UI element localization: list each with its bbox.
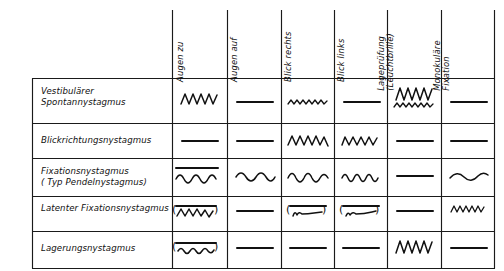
column-header-line: Blick links [337,39,347,82]
trace-sawtooth-large [181,94,217,104]
paren-open: ( [172,203,176,216]
column-header-lagepruefung: Lageprüfung (Leuchtbrille) [377,33,396,91]
row-label-blickrichtungsnystagmus: Blickrichtungsnystagmus [41,135,151,146]
paren-open: ( [172,240,176,253]
trace-sine-wide [450,173,488,180]
paren-open: ( [339,203,343,216]
column-header-blick-rechts: Blick rechts [284,31,294,81]
trace-sawtooth-small [177,209,213,217]
trace-sawtooth-medium [288,136,328,146]
paren-close: ) [214,240,218,253]
trace-sine-small [178,249,214,254]
row-label-line: Vestibulärer [41,86,126,97]
paren-close: ) [322,203,326,216]
column-header-line: Blick rechts [284,31,294,81]
trace-sawtooth-small [288,100,327,104]
row-label-fixationsnystagmus: Fixationsnystagmus ( Typ Pendelnystagmus… [41,166,147,188]
column-header-line: Augen zu [176,42,186,82]
trace-sine [288,174,328,183]
row-latenter-fixationsnystagmus-traces [176,206,484,217]
paren-close: ) [375,203,379,216]
row-label-latenter-fixationsnystagmus: Latenter Fixationsnystagmus [41,203,169,214]
trace-sine-small [342,175,378,182]
row-label-line: Spontannystagmus [41,97,126,108]
trace-sawtooth-large [396,88,432,100]
trace-decay [346,211,376,216]
column-header-monokulaere-fixation: Monokuläre Fixation [433,40,452,91]
paren-close: ) [214,203,218,216]
trace-sine [176,175,216,183]
trace-sine [236,173,275,181]
column-header-augen-zu: Augen zu [176,42,186,82]
row-lagerungsnystagmus-traces [176,241,487,254]
row-label-vestibulaerer-spontannystagmus: Vestibulärer Spontannystagmus [41,86,126,108]
row-label-line: Latenter Fixationsnystagmus [41,203,169,214]
column-header-line: (Leuchtbrille) [387,33,396,91]
paren-open: ( [286,203,290,216]
trace-sawtooth-small [451,206,484,212]
row-label-line: Lagerungsnystagmus [41,243,135,254]
nystagmus-table: .gl { stroke:#1a1a1a; stroke-width:1.05;… [0,0,504,271]
column-header-blick-links: Blick links [337,39,347,82]
column-header-augen-auf: Augen auf [230,38,240,82]
row-label-line: ( Typ Pendelnystagmus) [41,177,147,188]
figure-root: .gl { stroke:#1a1a1a; stroke-width:1.05;… [0,0,504,271]
trace-sawtooth-large [396,241,432,253]
trace-sawtooth-small [394,103,433,107]
row-label-line: Fixationsnystagmus [41,166,147,177]
row-label-lagerungsnystagmus: Lagerungsnystagmus [41,243,135,254]
row-label-line: Blickrichtungsnystagmus [41,135,151,146]
trace-sawtooth-medium-mirror [342,137,377,145]
column-header-line: Fixation [443,40,452,91]
trace-decay [293,212,322,216]
column-header-line: Augen auf [230,38,240,82]
